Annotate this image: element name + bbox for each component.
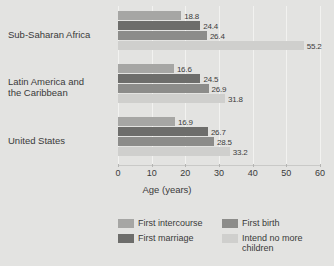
bar-row: 31.8 [118,94,320,103]
bar[interactable] [118,21,200,30]
x-tick-label-0: 0 [115,168,120,178]
bar[interactable] [118,41,304,50]
bar[interactable] [118,64,174,73]
legend-swatch-icon [222,219,238,228]
bar-row: 18.8 [118,11,320,20]
category-label-united-states: United States [8,135,118,146]
gridline-60 [320,6,321,166]
bar-value-label: 24.4 [200,21,218,30]
x-tick-label-10: 10 [147,168,157,178]
tick-mark-0 [118,164,119,167]
bar-value-label: 26.9 [209,84,227,93]
bar-value-label: 16.9 [175,117,193,126]
bar-row: 16.6 [118,64,320,73]
bar-group: 18.824.426.455.2 [118,11,320,51]
bar-value-label: 16.6 [174,64,192,73]
x-tick-label-40: 40 [248,168,258,178]
bar-value-label: 28.5 [214,137,232,146]
x-tick-label-50: 50 [281,168,291,178]
bar-row: 33.2 [118,147,320,156]
tick-mark-40 [253,164,254,167]
bar-row: 24.4 [118,21,320,30]
legend-label: First birth [242,218,280,229]
bar-row: 55.2 [118,41,320,50]
x-axis-title: Age (years) [0,184,334,195]
bar-row: 24.5 [118,74,320,83]
bar[interactable] [118,147,230,156]
bar[interactable] [118,31,207,40]
legend-swatch-icon [222,234,238,243]
bar-row: 16.9 [118,117,320,126]
tick-mark-30 [219,164,220,167]
bar[interactable] [118,137,214,146]
bar-group: 16.926.728.533.2 [118,117,320,157]
bar-row: 26.4 [118,31,320,40]
bar-value-label: 33.2 [230,147,248,156]
bar-value-label: 26.7 [208,127,226,136]
bar-row: 26.9 [118,84,320,93]
category-label-sub-saharan-africa: Sub-Saharan Africa [8,29,118,40]
legend-label: Intend no more children [242,233,334,254]
bar[interactable] [118,127,208,136]
bar-value-label: 31.8 [225,94,243,103]
tick-mark-20 [185,164,186,167]
bar-row: 28.5 [118,137,320,146]
bar-value-label: 55.2 [304,41,322,50]
tick-mark-10 [152,164,153,167]
grouped-bar-chart: Sub-Saharan Africa Latin America and the… [0,0,334,266]
bar[interactable] [118,74,200,83]
legend-swatch-icon [118,234,134,243]
bar-value-label: 24.5 [200,74,218,83]
bar[interactable] [118,11,181,20]
bar[interactable] [118,84,209,93]
x-tick-label-60: 60 [315,168,325,178]
tick-mark-50 [286,164,287,167]
category-label-latin-america-caribbean: Latin America and the Caribbean [8,76,118,98]
plot-area: 18.824.426.455.216.624.526.931.816.926.7… [118,6,320,166]
bar-value-label: 18.8 [181,11,199,20]
bar-row: 26.7 [118,127,320,136]
legend: First intercourseFirst birthFirst marria… [118,218,334,254]
legend-item[interactable]: First marriage [118,233,222,254]
x-tick-label-20: 20 [180,168,190,178]
bar-group: 16.624.526.931.8 [118,64,320,104]
bar[interactable] [118,94,225,103]
legend-swatch-icon [118,219,134,228]
tick-mark-60 [320,164,321,167]
bar-value-label: 26.4 [207,31,225,40]
legend-label: First intercourse [138,218,203,229]
bar[interactable] [118,117,175,126]
x-tick-label-30: 30 [214,168,224,178]
legend-item[interactable]: Intend no more children [222,233,334,254]
legend-label: First marriage [138,233,194,244]
legend-item[interactable]: First birth [222,218,334,229]
legend-item[interactable]: First intercourse [118,218,222,229]
